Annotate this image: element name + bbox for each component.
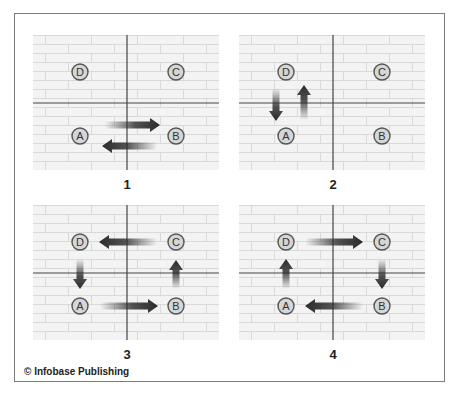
panel-1: A B C D: [33, 35, 219, 170]
svg-text:A: A: [282, 130, 290, 142]
svg-text:C: C: [378, 66, 386, 78]
panel-label-3: 3: [112, 347, 142, 362]
node-b: B: [374, 128, 390, 144]
svg-text:C: C: [172, 66, 180, 78]
svg-text:B: B: [378, 300, 385, 312]
node-b: B: [168, 298, 184, 314]
svg-text:C: C: [172, 236, 180, 248]
svg-text:D: D: [76, 66, 84, 78]
svg-text:B: B: [378, 130, 385, 142]
svg-text:D: D: [282, 66, 290, 78]
svg-text:A: A: [76, 130, 84, 142]
panel-label-4: 4: [318, 347, 348, 362]
node-d: D: [72, 234, 88, 250]
svg-text:A: A: [76, 300, 84, 312]
copyright-credit: © Infobase Publishing: [24, 366, 129, 377]
svg-text:B: B: [172, 130, 179, 142]
node-a: A: [72, 298, 88, 314]
node-d: D: [278, 64, 294, 80]
node-a: A: [72, 128, 88, 144]
panel-2: A B C D: [239, 35, 425, 170]
node-c: C: [168, 234, 184, 250]
panel-4: A B C D: [239, 205, 425, 340]
node-b: B: [374, 298, 390, 314]
node-a: A: [278, 128, 294, 144]
panel-label-1: 1: [112, 177, 142, 192]
panel-3: A B C D: [33, 205, 219, 340]
svg-text:D: D: [76, 236, 84, 248]
node-c: C: [374, 234, 390, 250]
panel-label-2: 2: [318, 177, 348, 192]
node-c: C: [374, 64, 390, 80]
svg-text:B: B: [172, 300, 179, 312]
svg-text:A: A: [282, 300, 290, 312]
node-c: C: [168, 64, 184, 80]
svg-text:C: C: [378, 236, 386, 248]
svg-text:D: D: [282, 236, 290, 248]
node-b: B: [168, 128, 184, 144]
node-d: D: [72, 64, 88, 80]
node-a: A: [278, 298, 294, 314]
node-d: D: [278, 234, 294, 250]
